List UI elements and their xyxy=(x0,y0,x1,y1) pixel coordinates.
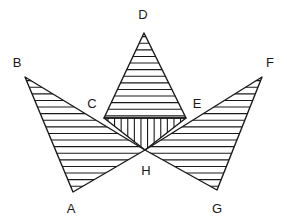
geometry-figure: ABCDEFGH xyxy=(0,0,287,223)
vertex-label-d: D xyxy=(138,8,147,21)
vertex-label-h: H xyxy=(141,164,150,177)
outline-top-triangle xyxy=(104,33,186,118)
vertex-label-f: F xyxy=(266,56,274,69)
geometry-canvas xyxy=(0,0,287,223)
hatch-top-triangle xyxy=(101,37,189,116)
vertex-label-g: G xyxy=(212,202,222,215)
vertex-label-a: A xyxy=(67,202,76,215)
vertex-label-b: B xyxy=(13,56,22,69)
vertex-label-c: C xyxy=(87,97,96,110)
vertex-label-e: E xyxy=(193,97,202,110)
